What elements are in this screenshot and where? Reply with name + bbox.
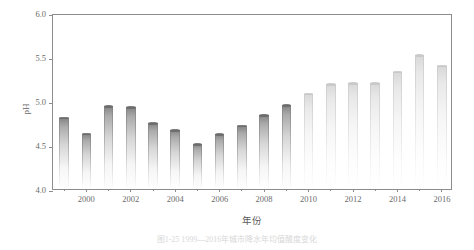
bar-edgel: [170, 130, 171, 189]
bar-edgel: [348, 83, 349, 189]
bar-edgel: [126, 107, 127, 189]
bar-edgel: [304, 94, 305, 189]
x-tick-mark: [330, 189, 331, 191]
bar-edger: [312, 94, 313, 189]
bar-cap: [126, 106, 136, 109]
x-tick-mark: [175, 189, 176, 192]
bar: [82, 134, 92, 189]
bar-edger: [157, 123, 158, 189]
x-tick-label: 2000: [78, 194, 95, 204]
bar: [104, 106, 114, 189]
bar-edger: [223, 134, 224, 189]
bar-edger: [379, 83, 380, 189]
bar-edgel: [148, 123, 149, 189]
y-tick-mark: [49, 59, 53, 60]
y-axis-title: pH: [21, 89, 31, 129]
bar: [415, 55, 425, 189]
bar: [148, 123, 158, 189]
bar: [193, 144, 203, 189]
bar-edgel: [237, 126, 238, 189]
x-tick-mark: [419, 189, 420, 191]
bar-edger: [246, 126, 247, 189]
bar-cap: [59, 117, 69, 120]
bar-edger: [112, 106, 113, 189]
bar-edgel: [370, 83, 371, 189]
bar-edgel: [193, 144, 194, 189]
bar: [326, 84, 336, 189]
bar-cap: [104, 105, 114, 108]
y-tick-label: 5.5: [35, 53, 46, 63]
x-tick-mark: [308, 189, 309, 192]
figure-container: pH 4.04.55.05.56.0 200020022004200620082…: [0, 0, 474, 250]
x-tick-label: 2006: [211, 194, 228, 204]
y-tick-label: 6.0: [35, 9, 46, 19]
y-tick-mark: [49, 103, 53, 104]
y-tick-mark: [49, 191, 53, 192]
x-tick-mark: [264, 189, 265, 192]
bar: [437, 66, 447, 189]
bar-edgel: [104, 106, 105, 189]
bar-edgel: [282, 105, 283, 189]
bar-cap: [348, 82, 358, 85]
bar: [170, 130, 180, 189]
bar-edgel: [259, 115, 260, 189]
x-tick-mark: [397, 189, 398, 192]
bar-edger: [401, 72, 402, 189]
bar-edger: [357, 83, 358, 189]
bar-edger: [201, 144, 202, 189]
bar-edger: [90, 134, 91, 189]
y-tick-mark: [49, 15, 53, 16]
bar-edgel: [326, 84, 327, 189]
y-tick-label: 4.5: [35, 141, 46, 151]
figure-caption: 图1-25 1999—2016年城市降水年均值酸度变化: [0, 233, 474, 244]
bar: [348, 83, 358, 189]
bar-edgel: [59, 118, 60, 189]
x-tick-mark: [219, 189, 220, 192]
x-tick-mark: [64, 189, 65, 191]
bar-edger: [423, 55, 424, 189]
x-tick-label: 2004: [167, 194, 184, 204]
bar-edgel: [437, 66, 438, 189]
bar-cap: [282, 104, 292, 107]
y-tick-label: 5.0: [35, 97, 46, 107]
x-tick-mark: [108, 189, 109, 191]
bar-cap: [148, 122, 158, 125]
bar-edgel: [215, 134, 216, 189]
x-axis-title: 年份: [52, 213, 452, 227]
x-tick-mark: [241, 189, 242, 191]
x-tick-mark: [441, 189, 442, 192]
bar: [126, 107, 136, 189]
bar-edgel: [82, 134, 83, 189]
plot-area: 4.04.55.05.56.0 200020022004200620082010…: [52, 14, 452, 190]
bar-cap: [215, 133, 225, 136]
bar-cap: [170, 129, 180, 132]
bar-edger: [135, 107, 136, 189]
bar: [237, 126, 247, 189]
bar-cap: [370, 82, 380, 85]
bar-cap: [437, 65, 447, 68]
bar: [59, 118, 69, 189]
bar-cap: [326, 83, 336, 86]
bar-edgel: [415, 55, 416, 189]
bar-edgel: [393, 72, 394, 189]
bar-edger: [179, 130, 180, 189]
bar: [304, 94, 314, 189]
bar-edger: [68, 118, 69, 189]
x-tick-mark: [153, 189, 154, 191]
bar-cap: [82, 133, 92, 136]
x-tick-label: 2012: [345, 194, 362, 204]
x-tick-label: 2008: [256, 194, 273, 204]
x-tick-mark: [130, 189, 131, 192]
bar: [370, 83, 380, 189]
bar-edger: [268, 115, 269, 189]
bar-edger: [290, 105, 291, 189]
x-tick-mark: [286, 189, 287, 191]
bar: [259, 115, 269, 189]
bar-cap: [193, 143, 203, 146]
x-tick-label: 2002: [122, 194, 139, 204]
bar: [393, 72, 403, 189]
y-tick-mark: [49, 147, 53, 148]
bar-edger: [335, 84, 336, 189]
x-tick-mark: [375, 189, 376, 191]
x-tick-mark: [353, 189, 354, 192]
